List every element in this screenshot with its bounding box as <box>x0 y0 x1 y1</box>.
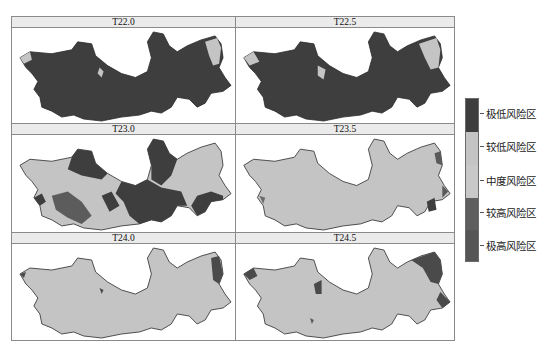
panel-title: T22.0 <box>12 17 235 28</box>
panel-t24-5: T24.5 <box>236 233 454 340</box>
map-region <box>12 28 235 123</box>
map-region <box>12 244 235 340</box>
legend-swatch-very-high <box>466 230 478 261</box>
legend-swatch-moderate <box>466 165 478 198</box>
legend-label-low: 较低风险区 <box>486 139 536 154</box>
legend-colorbar <box>465 98 479 262</box>
legend-label-moderate: 中度风险区 <box>486 173 536 188</box>
legend-label-very-high: 极高风险区 <box>486 238 536 253</box>
panel-title: T24.5 <box>236 233 454 244</box>
legend-tick <box>480 146 484 147</box>
panel-t23-0: T23.0 <box>12 124 236 233</box>
map-region <box>236 244 454 340</box>
legend-swatch-high <box>466 198 478 230</box>
legend-swatch-low <box>466 132 478 165</box>
map-region <box>236 135 454 232</box>
panel-title: T23.0 <box>12 124 235 135</box>
legend-tick <box>480 113 484 114</box>
panel-title: T22.5 <box>236 17 454 28</box>
panel-t22-0: T22.0 <box>12 17 236 124</box>
panel-t23-5: T23.5 <box>236 124 454 233</box>
legend-label-high: 较高风险区 <box>486 205 536 220</box>
panel-title: T23.5 <box>236 124 454 135</box>
panel-t24-0: T24.0 <box>12 233 236 340</box>
panel-t22-5: T22.5 <box>236 17 454 124</box>
legend-tick <box>480 180 484 181</box>
map-region <box>12 135 235 232</box>
legend-label-very-low: 极低风险区 <box>486 106 536 121</box>
legend-tick <box>480 245 484 246</box>
map-grid: T22.0 T22.5 T23.0 <box>11 16 455 341</box>
legend-tick <box>480 212 484 213</box>
map-region <box>236 28 454 123</box>
legend-swatch-very-low <box>466 99 478 132</box>
panel-title: T24.0 <box>12 233 235 244</box>
